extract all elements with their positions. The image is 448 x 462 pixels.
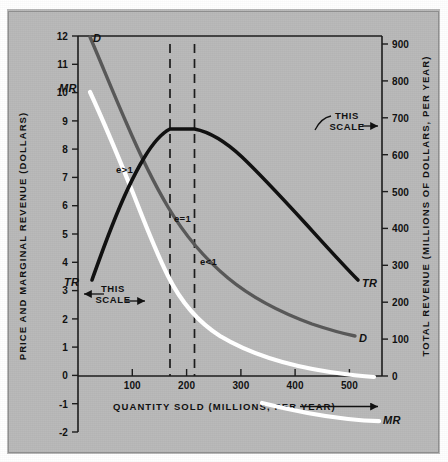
x-tick-label: 300	[232, 380, 249, 391]
left-tick-label: 2	[62, 314, 68, 325]
label-elastic: e>1	[116, 164, 133, 175]
figure-root: 12 11 10 9 8 7 6 5 4 3 2 1 0 -1 -2 PRICE…	[0, 0, 448, 462]
x-axis-tick-labels: 100 200 300 400 500	[124, 380, 358, 391]
right-tick-label: 800	[392, 76, 409, 87]
curve-label-tr-start: TR	[64, 276, 79, 288]
x-tick-label: 500	[341, 380, 358, 391]
left-tick-label: 6	[62, 200, 68, 211]
left-tick-label: 8	[62, 144, 68, 155]
curve-label-d-top: D	[93, 32, 101, 44]
left-tick-label: 5	[62, 229, 68, 240]
left-tick-label: -2	[59, 427, 68, 438]
right-tick-label: 400	[392, 223, 409, 234]
left-tick-label: 11	[57, 59, 68, 70]
vertical-dashed-lines	[170, 44, 195, 376]
right-tick-label: 600	[392, 150, 409, 161]
left-tick-label: 4	[62, 257, 68, 268]
right-tick-label: 900	[392, 39, 409, 50]
left-tick-label: 0	[62, 370, 68, 381]
label-inelastic: e<1	[200, 256, 217, 267]
left-tick-label: 1	[62, 342, 68, 353]
this-scale-left-line2: SCALE	[95, 294, 130, 305]
this-scale-right-line2: SCALE	[329, 121, 364, 132]
this-scale-right-line1: THIS	[335, 110, 359, 121]
this-scale-left-line1: THIS	[101, 283, 125, 294]
right-tick-label: 100	[392, 334, 409, 345]
x-tick-label: 100	[124, 380, 141, 391]
left-tick-label: 12	[57, 31, 69, 42]
right-tick-label: 200	[392, 297, 409, 308]
curve-tr	[92, 129, 358, 280]
label-unit-elastic: e=1	[174, 213, 191, 224]
left-tick-label: 9	[62, 116, 68, 127]
right-axis-title: TOTAL REVENUE (MILLIONS OF DOLLARS, PER …	[420, 55, 431, 356]
curves-group	[90, 37, 374, 377]
right-tick-label: 0	[392, 371, 398, 382]
right-axis-ticks	[382, 44, 388, 376]
left-axis-title: PRICE AND MARGINAL REVENUE (DOLLARS)	[17, 112, 28, 361]
x-tick-label: 200	[178, 380, 195, 391]
curve-label-tr-end: TR	[362, 277, 377, 289]
curve-label-mr-end: MR	[383, 414, 401, 426]
curve-label-d-end: D	[359, 332, 367, 344]
right-axis-tick-labels: 900 800 700 600 500 400 300 200 100 0	[392, 39, 409, 382]
left-tick-label: 7	[62, 172, 68, 183]
right-tick-label: 500	[392, 187, 409, 198]
left-axis-ticks	[72, 36, 78, 432]
left-tick-label: -1	[59, 399, 68, 410]
right-tick-label: 300	[392, 260, 409, 271]
curve-label-mr-top: MR	[59, 82, 77, 94]
x-tick-label: 400	[287, 380, 304, 391]
right-tick-label: 700	[392, 113, 409, 124]
chart-svg: 12 11 10 9 8 7 6 5 4 3 2 1 0 -1 -2 PRICE…	[0, 0, 448, 462]
this-scale-right-annotation: THIS SCALE	[315, 110, 378, 132]
this-scale-left-annotation: THIS SCALE	[84, 283, 145, 305]
